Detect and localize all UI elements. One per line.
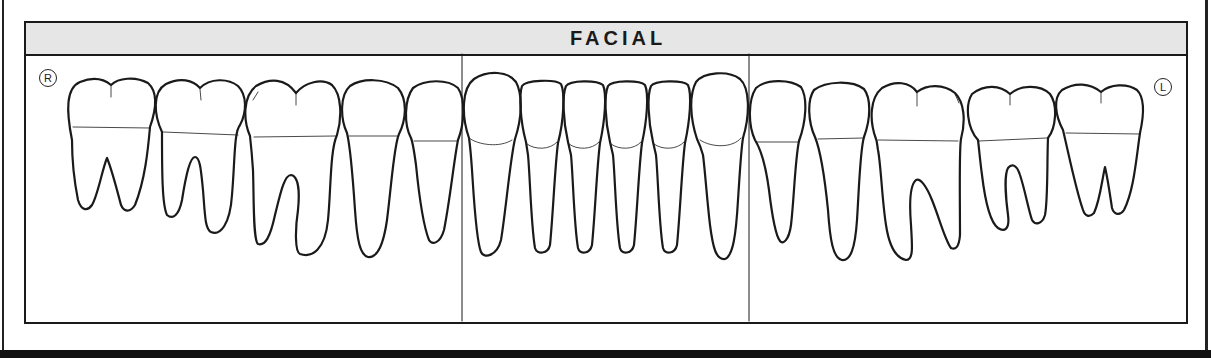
left-side-label: L [1160, 81, 1166, 93]
tooth-6[interactable] [464, 73, 521, 256]
teeth-diagram [0, 0, 1211, 358]
tooth-14[interactable] [872, 83, 964, 260]
tooth-8[interactable] [564, 81, 606, 252]
tooth-16[interactable] [1056, 85, 1143, 216]
tooth-12[interactable] [750, 81, 805, 242]
tooth-1[interactable] [68, 79, 155, 211]
tooth-2[interactable] [156, 80, 245, 233]
tooth-11[interactable] [691, 73, 748, 259]
tooth-13[interactable] [809, 83, 869, 260]
left-side-marker: L [1154, 78, 1172, 96]
tooth-15[interactable] [968, 87, 1055, 230]
right-side-label: R [44, 72, 52, 84]
tooth-9[interactable] [606, 81, 648, 252]
tooth-10[interactable] [649, 81, 691, 252]
tooth-3[interactable] [245, 81, 340, 255]
tooth-7[interactable] [520, 81, 563, 253]
tooth-4[interactable] [342, 80, 405, 257]
tooth-5[interactable] [406, 81, 463, 242]
right-side-marker: R [39, 69, 57, 87]
